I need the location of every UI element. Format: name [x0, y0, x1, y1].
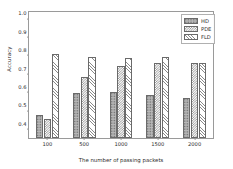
bar-fld-2000: [199, 63, 206, 138]
legend-label-hd: HD: [201, 18, 209, 24]
x-axis-label: The number of passing packets: [28, 157, 214, 163]
bar-pde-100: [44, 119, 51, 138]
x-tick-label: 500: [79, 141, 89, 147]
y-tick-label: 0.4: [18, 121, 26, 127]
bar-chart-figure: Accuracy 0.40.50.60.70.80.91.01005001000…: [0, 0, 233, 169]
bar-pde-500: [81, 77, 88, 138]
y-tick-label: 0.8: [18, 47, 26, 53]
bar-fld-1500: [162, 57, 169, 138]
y-tick-mark: [27, 129, 29, 130]
x-tick-label: 1500: [151, 141, 164, 147]
legend-item-fld: FLD: [184, 33, 211, 41]
y-axis-label: Accuracy: [6, 31, 12, 87]
bar-pde-1500: [154, 63, 161, 138]
x-tick-mark: [84, 138, 85, 140]
legend-label-pde: PDE: [201, 26, 211, 32]
y-tick-label: 0.9: [18, 29, 26, 35]
y-tick-label: 0.6: [18, 84, 26, 90]
chart-legend: HD PDE FLD: [181, 14, 215, 44]
bar-fld-500: [88, 57, 95, 138]
y-tick-mark: [27, 18, 29, 19]
legend-item-hd: HD: [184, 17, 211, 25]
x-tick-label: 2000: [188, 141, 201, 147]
bar-pde-1000: [117, 66, 124, 138]
x-tick-label: 100: [42, 141, 52, 147]
legend-swatch-fld: [184, 34, 198, 40]
bar-hd-1500: [146, 95, 153, 138]
bar-hd-1000: [110, 92, 117, 138]
bar-hd-500: [73, 93, 80, 138]
x-tick-mark: [157, 138, 158, 140]
y-tick-label: 0.7: [18, 66, 26, 72]
bar-hd-2000: [183, 98, 190, 138]
y-tick-mark: [27, 55, 29, 56]
legend-swatch-pde: [184, 26, 198, 32]
x-tick-mark: [194, 138, 195, 140]
y-tick-mark: [27, 37, 29, 38]
y-tick-mark: [27, 92, 29, 93]
bar-fld-1000: [125, 58, 132, 138]
y-tick-mark: [27, 110, 29, 111]
bar-fld-100: [52, 54, 59, 138]
legend-label-fld: FLD: [201, 34, 211, 40]
y-tick-mark: [27, 73, 29, 74]
x-tick-mark: [47, 138, 48, 140]
bar-pde-2000: [191, 63, 198, 138]
y-tick-label: 1.0: [18, 10, 26, 16]
bar-hd-100: [36, 115, 43, 138]
x-tick-label: 1000: [114, 141, 127, 147]
legend-item-pde: PDE: [184, 25, 211, 33]
legend-swatch-hd: [184, 18, 198, 24]
x-tick-mark: [121, 138, 122, 140]
y-tick-label: 0.5: [18, 102, 26, 108]
